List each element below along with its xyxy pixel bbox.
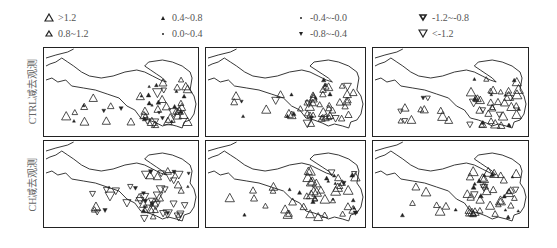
plateau-map	[44, 141, 199, 228]
plateau-map	[206, 48, 366, 137]
plateau-map	[206, 141, 366, 228]
map-panel-r2c2	[205, 140, 366, 228]
row-1-ylabel: CTRL减去观测	[24, 47, 39, 137]
triangle-up-medium-icon	[44, 29, 54, 38]
triangle-up-large-icon	[44, 13, 54, 22]
map-panel-r2c3	[372, 140, 529, 228]
legend: >1.2 0.8~1.2 0.4~0.8 0.0~0.4 -0.4~-0.0 -…	[0, 12, 557, 42]
triangle-up-small-icon	[158, 13, 168, 22]
triangle-down-medium-icon	[418, 13, 428, 22]
dot-icon	[158, 29, 168, 38]
triangle-down-small-icon	[296, 29, 306, 38]
map-panel-r2c1	[43, 140, 199, 228]
legend-item-lt-neg1.2: <-1.2	[418, 28, 453, 39]
row-2-ylabel: CH减去观测	[24, 140, 39, 230]
legend-item-neg1.2-neg0.8: -1.2~-0.8	[418, 12, 469, 23]
plateau-map	[373, 48, 529, 137]
legend-item-gt-1.2: >1.2	[44, 12, 76, 23]
plateau-map	[373, 141, 529, 228]
legend-item-0.8-1.2: 0.8~1.2	[44, 28, 88, 39]
map-panel-r1c1	[43, 47, 199, 137]
legend-item-neg0.8-neg0.4: -0.8~-0.4	[296, 28, 347, 39]
legend-item-0.0-0.4: 0.0~0.4	[158, 28, 202, 39]
legend-item-neg0.4-0.0: -0.4~-0.0	[296, 12, 347, 23]
triangle-down-large-icon	[418, 29, 428, 38]
map-panel-r1c2	[205, 47, 366, 137]
legend-item-0.4-0.8: 0.4~0.8	[158, 12, 202, 23]
map-panel-r1c3	[372, 47, 529, 137]
plateau-map	[44, 48, 199, 137]
dot-icon	[296, 13, 306, 22]
